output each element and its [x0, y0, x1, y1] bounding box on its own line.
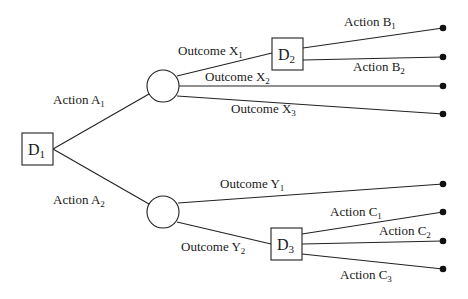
label-outcome-x3: Outcome X3 [231, 101, 296, 118]
decision-tree-diagram: D1 D2 D3 Action A1 Action A2 Outcome X1 … [0, 0, 468, 299]
chance-node-1 [147, 70, 179, 102]
decision-node-d1: D1 [22, 133, 53, 165]
label-outcome-x2: Outcome X2 [205, 69, 270, 86]
terminal-point-x3 [440, 111, 447, 118]
label-outcome-x1: Outcome X1 [178, 43, 243, 60]
label-action-b2: Action B2 [353, 59, 405, 76]
decision-node-d2: D2 [272, 38, 303, 70]
label-outcome-y1: Outcome Y1 [220, 176, 284, 193]
chance-node-2 [147, 196, 179, 228]
terminal-point-y1 [440, 181, 447, 188]
terminal-point-b2 [440, 54, 447, 61]
terminal-point-c2 [440, 238, 447, 245]
edge-outcome-x3 [177, 96, 443, 114]
edge-action-c2 [302, 241, 443, 244]
label-action-b1: Action B1 [344, 14, 396, 31]
edge-labels: Action A1 Action A2 Outcome X1 Outcome X… [53, 14, 431, 284]
edge-action-b1 [303, 28, 443, 48]
decision-node-d3: D3 [271, 228, 302, 260]
label-action-c1: Action C1 [330, 204, 382, 221]
edge-outcome-y1 [178, 184, 443, 203]
label-action-a1: Action A1 [53, 92, 105, 109]
label-action-a2: Action A2 [53, 192, 105, 209]
terminal-point-x2 [440, 83, 447, 90]
label-outcome-y2: Outcome Y2 [181, 239, 245, 256]
terminal-point-c1 [440, 209, 447, 216]
terminal-point-c3 [440, 266, 447, 273]
terminal-point-b1 [440, 25, 447, 32]
label-action-c3: Action C3 [340, 267, 392, 284]
terminal-points [440, 25, 447, 273]
label-action-c2: Action C2 [379, 223, 431, 240]
